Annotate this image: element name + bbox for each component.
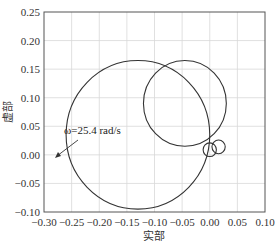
y-tick-label: 0.15 — [21, 63, 41, 75]
small-loop-2-curve — [212, 140, 225, 154]
x-axis-label: 实部 — [143, 229, 165, 243]
y-tick-label: 0.05 — [21, 120, 41, 132]
second-circle-curve — [143, 61, 226, 147]
x-tick-label: 0.10 — [255, 216, 275, 228]
annotation-label: ω=25.4 rad/s — [64, 124, 121, 136]
y-tick-label: −0.05 — [15, 177, 41, 189]
y-tick-label: 0.25 — [21, 6, 41, 18]
y-axis-label: 虚部 — [1, 101, 15, 123]
x-tick-label: 0.00 — [200, 216, 220, 228]
y-tick-label: −0.10 — [15, 206, 41, 218]
x-tick-label: −0.05 — [169, 216, 195, 228]
x-tick-label: −0.25 — [59, 216, 85, 228]
x-tick-label: 0.05 — [228, 216, 248, 228]
y-tick-label: 0.00 — [21, 149, 41, 161]
x-tick-label: −0.10 — [142, 216, 168, 228]
nyquist-chart: −0.30−0.25−0.20−0.15−0.10−0.050.000.050.… — [0, 0, 277, 245]
annotation-arrow — [57, 140, 78, 156]
y-tick-labels: 0.250.200.150.100.050.00−0.05−0.10 — [15, 6, 41, 218]
x-tick-label: −0.15 — [114, 216, 140, 228]
grid-lines — [44, 12, 265, 212]
x-tick-label: −0.20 — [87, 216, 113, 228]
y-tick-label: 0.10 — [21, 92, 41, 104]
y-tick-label: 0.20 — [21, 35, 41, 47]
x-tick-labels: −0.30−0.25−0.20−0.15−0.10−0.050.000.050.… — [31, 216, 275, 228]
